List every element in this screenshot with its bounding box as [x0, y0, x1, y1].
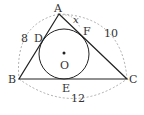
label-e: E	[62, 82, 70, 95]
center-dot	[63, 52, 66, 55]
label-d: D	[34, 32, 43, 45]
label-b: B	[8, 73, 16, 86]
length-bc: 12	[71, 92, 85, 105]
label-o: O	[60, 59, 69, 72]
label-f: F	[83, 25, 91, 38]
length-ab: 8	[21, 32, 28, 45]
triangle-incircle-diagram: A B C O D F E x 8 10 12	[0, 0, 144, 115]
label-c: C	[129, 73, 137, 86]
label-x: x	[73, 14, 79, 25]
length-ac: 10	[104, 27, 118, 40]
label-a: A	[53, 2, 63, 15]
